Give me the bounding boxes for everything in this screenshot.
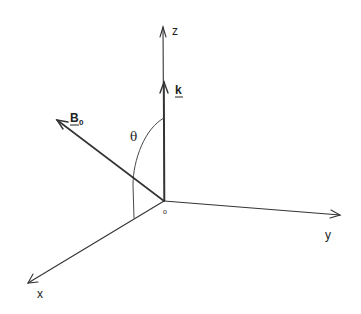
b0-vector-label: B: [70, 111, 79, 125]
theta-label: θ: [130, 130, 137, 144]
x-axis: [28, 201, 164, 283]
b0-subscript: 0: [79, 118, 84, 127]
z-axis-label: z: [172, 24, 178, 38]
coordinate-diagram: z k B 0 θ o y x: [0, 0, 361, 314]
y-axis-label: y: [325, 228, 331, 242]
k-vector-label: k: [175, 83, 182, 97]
b0-vector: [57, 120, 164, 201]
origin-label: o: [163, 208, 167, 215]
k-vector: [160, 82, 168, 201]
x-axis-label: x: [37, 287, 43, 301]
y-axis: [164, 201, 340, 218]
theta-arc: [133, 118, 164, 218]
